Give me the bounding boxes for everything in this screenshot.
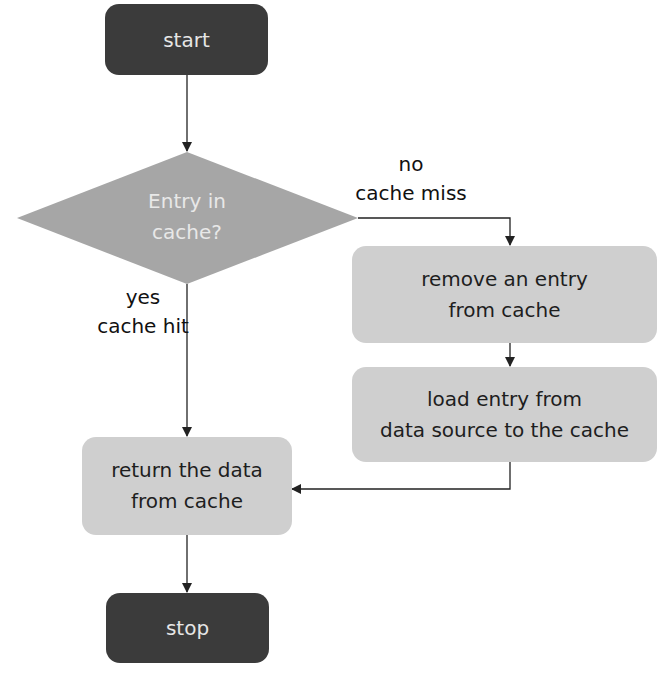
load-entry-node: load entry from data source to the cache (352, 367, 657, 462)
remove-entry-node: remove an entry from cache (352, 246, 657, 343)
load-entry-label: load entry from data source to the cache (380, 384, 629, 446)
edge-decision-to-remove (358, 218, 510, 245)
start-node: start (105, 4, 268, 75)
no-branch-label: no cache miss (346, 150, 476, 208)
start-label: start (163, 28, 210, 52)
return-data-node: return the data from cache (82, 437, 292, 535)
decision-label: Entry in cache? (107, 186, 267, 248)
remove-entry-label: remove an entry from cache (421, 264, 587, 326)
return-data-label: return the data from cache (111, 455, 263, 517)
stop-node: stop (106, 593, 269, 663)
stop-label: stop (166, 616, 209, 640)
yes-branch-label: yes cache hit (78, 283, 208, 341)
edge-load-to-return (292, 462, 510, 489)
